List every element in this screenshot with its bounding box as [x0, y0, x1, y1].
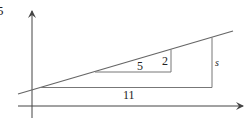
small-rise-label: 2 [162, 54, 168, 68]
sloped-line [18, 31, 233, 94]
small-run-label: 5 [137, 59, 143, 73]
similar-triangles-diagram: 5 5 2 s 11 [0, 0, 248, 128]
large-rise-label: s [215, 57, 219, 68]
large-run-label: 11 [123, 88, 135, 102]
corner-label: 5 [0, 3, 4, 18]
